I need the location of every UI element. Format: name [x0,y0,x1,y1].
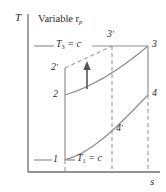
isobar-curve-2-to-3 [65,46,148,95]
state-label-4: 4 [152,88,157,98]
state-label-2: 2 [53,89,58,99]
state-2-text: 2 [53,88,58,99]
isobar-curve-1-to-4 [65,95,148,160]
lower-isotherm-subscript: 1 [83,157,86,164]
state-label-2-prime: 2′ [51,62,58,72]
lower-isotherm-equals: = c [86,152,102,163]
upward-arrow-head [83,61,90,70]
state-label-3: 3 [152,39,157,49]
state-3p-prime: ′ [112,29,114,39]
y-axis-label: T [15,12,21,23]
x-axis-label: s [150,176,154,187]
state-4-text: 4 [152,87,157,98]
figure-title-subscript: p [79,18,82,25]
state-4p-prime: ′ [121,123,123,133]
upper-isotherm-label: T3 = c [56,39,81,49]
state-label-4-prime: 4′ [116,123,123,133]
upper-isotherm-equals: = c [65,38,81,49]
upper-isotherm-symbol: T [56,38,62,49]
upper-isotherm-subscript: 3 [62,43,65,50]
figure-title: Variable rp [38,14,82,25]
state-label-3-prime: 3′ [107,29,114,39]
figure-title-text: Variable r [38,13,79,24]
state-3-text: 3 [152,38,157,49]
state-2p-prime: ′ [56,62,58,72]
ts-diagram-figure: T s Variable rp T3 = c T1 = c 1 2 2′ 3 3… [0,0,166,192]
lower-isotherm-symbol: T [77,152,83,163]
state-1-text: 1 [53,153,58,164]
lower-isotherm-label: T1 = c [77,153,102,163]
state-label-1: 1 [53,154,58,164]
